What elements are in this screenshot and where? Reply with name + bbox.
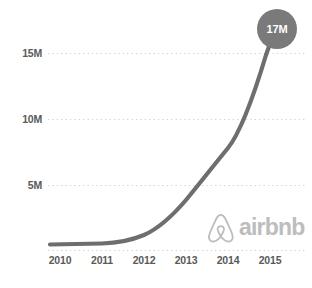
y-tick-label-5m: 5M [2,180,42,191]
x-tick-label-2013: 2013 [166,255,206,266]
x-tick-label-2014: 2014 [208,255,248,266]
airbnb-wordmark: airbnb [239,215,304,239]
chart-canvas [0,0,312,288]
airbnb-growth-chart: 15M 10M 5M 2010 2011 2012 2013 2014 2015… [0,0,312,288]
x-tick-label-2011: 2011 [82,255,122,266]
callout-bubble-17m [257,9,297,49]
x-tick-label-2015: 2015 [250,255,290,266]
y-tick-label-10m: 10M [2,114,42,125]
x-tick-label-2012: 2012 [124,255,164,266]
x-tick-label-2010: 2010 [40,255,80,266]
y-tick-label-15m: 15M [2,48,42,59]
airbnb-belo-icon [209,215,233,242]
